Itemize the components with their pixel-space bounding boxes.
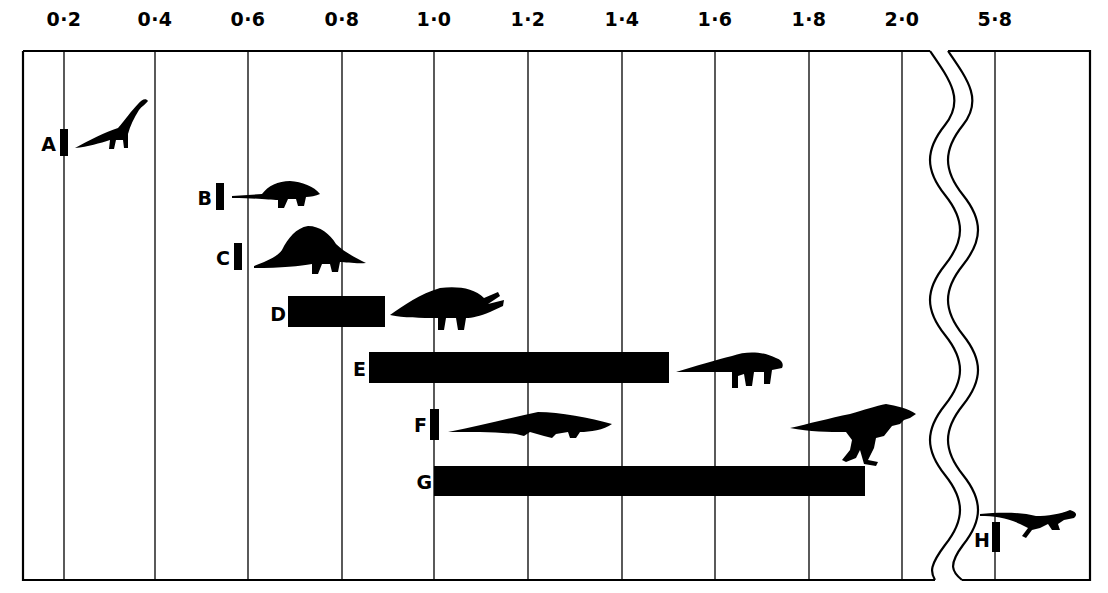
x-tick-label: 0·4 <box>137 8 172 30</box>
range-bar-b <box>216 183 224 210</box>
range-bar-d <box>288 296 385 327</box>
bar-label-g: G <box>416 471 432 493</box>
bar-label-b: B <box>198 187 212 209</box>
range-bar-a <box>60 129 68 156</box>
ankylosaur-icon <box>232 181 320 208</box>
x-tick-label: 1·0 <box>416 8 451 30</box>
bar-label-h: H <box>974 529 990 551</box>
x-tick-label: 1·8 <box>791 8 826 30</box>
bar-label-a: A <box>41 133 56 155</box>
gridlines <box>64 51 995 580</box>
frame-right <box>948 51 1090 580</box>
dinosaur-range-chart: 0·2 0·4 0·6 0·8 1·0 1·2 1·4 1·6 1·8 2·0 … <box>0 0 1108 593</box>
axis-break <box>930 51 978 580</box>
range-bar-f <box>430 409 439 440</box>
sauropod-icon <box>75 99 148 149</box>
triceratops-icon <box>390 287 504 330</box>
crocodilian-icon <box>448 412 612 438</box>
range-bar-h <box>992 522 1000 552</box>
x-tick-label: 5·8 <box>977 8 1012 30</box>
range-bar-g <box>434 466 865 496</box>
x-tick-label: 0·8 <box>324 8 359 30</box>
range-bar-c <box>234 243 242 270</box>
range-bar-e <box>369 352 669 383</box>
bar-label-e: E <box>353 358 366 380</box>
stegosaur-icon <box>254 226 366 274</box>
plot-area <box>0 0 1108 593</box>
x-tick-label: 2·0 <box>884 8 919 30</box>
bar-label-d: D <box>270 303 286 325</box>
x-tick-label: 0·6 <box>230 8 265 30</box>
x-tick-label: 0·2 <box>46 8 81 30</box>
x-tick-label: 1·4 <box>604 8 639 30</box>
bar-label-f: F <box>414 414 427 436</box>
x-tick-label: 1·6 <box>697 8 732 30</box>
x-tick-label: 1·2 <box>510 8 545 30</box>
ornithopod-icon <box>676 352 783 388</box>
bar-label-c: C <box>216 247 230 269</box>
